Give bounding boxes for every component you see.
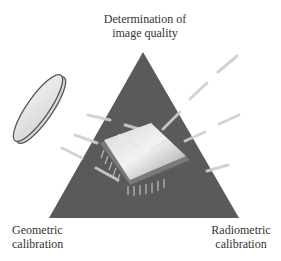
label-line: Radiometric (206, 223, 276, 237)
triangle-diagram: Determination of image quality (0, 0, 281, 261)
label-line: Geometric (12, 223, 72, 237)
lens-disc-illustration (6, 69, 73, 149)
vertex-label-geometric-calibration: Geometric calibration (12, 223, 72, 251)
vertex-label-radiometric-calibration: Radiometric calibration (206, 223, 276, 251)
label-line: calibration (206, 237, 276, 251)
diagram-graphic (0, 0, 281, 261)
label-line: calibration (12, 237, 72, 251)
